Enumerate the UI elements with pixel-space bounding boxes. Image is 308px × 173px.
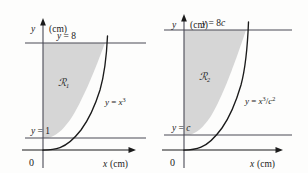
panel-region-r2: y (cm) x (cm) 0 y = 8c y = c y = x3/c2 ℛ…	[154, 0, 308, 173]
y-axis-arrowhead-r1	[40, 18, 46, 26]
x-axis-arrowhead-r2	[276, 147, 284, 153]
panel-region-r1: y (cm) x (cm) 0 y = 8 y = 1 y = x3 ℛ1	[0, 0, 154, 173]
lower-bound-label-r1: y = 1	[30, 126, 50, 136]
x-axis-unit-r1: (cm)	[110, 159, 128, 170]
curve-label-r2: y = x3/c2	[244, 95, 275, 106]
y-axis-label-r1: y	[30, 24, 36, 34]
shaded-area-r2	[184, 30, 246, 135]
x-axis-label-r1: x	[102, 159, 108, 169]
origin-label-r1: 0	[29, 157, 34, 168]
curve-label-r1: y = x3	[104, 96, 126, 107]
x-axis-arrowhead-r1	[129, 147, 137, 153]
y-axis-label-r2: y	[171, 20, 177, 30]
origin-label-r2: 0	[170, 157, 175, 168]
figure-container: y (cm) x (cm) 0 y = 8 y = 1 y = x3 ℛ1	[0, 0, 308, 173]
lower-bound-label-r2: y = c	[171, 123, 191, 133]
y-axis-arrowhead-r2	[181, 14, 187, 22]
x-axis-label-r2: x	[249, 159, 255, 169]
shaded-area-r1	[43, 43, 105, 138]
upper-bound-label-r2: y = 8c	[201, 18, 226, 28]
upper-bound-label-r1: y = 8	[56, 31, 76, 41]
x-axis-unit-r2: (cm)	[257, 159, 275, 170]
